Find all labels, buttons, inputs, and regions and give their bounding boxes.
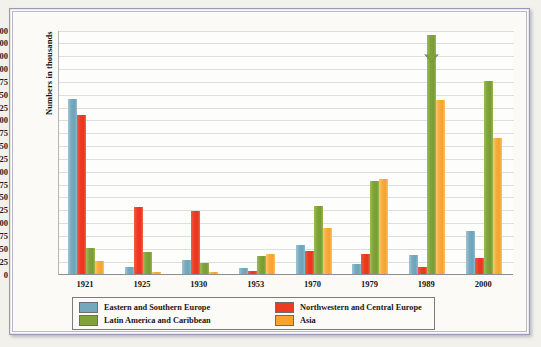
bar-group	[182, 30, 218, 274]
y-axis-tick-label: 25	[0, 258, 8, 266]
bar[interactable]	[77, 115, 86, 274]
bar[interactable]	[182, 260, 191, 274]
legend-swatch-orange	[275, 315, 294, 326]
bar[interactable]	[191, 211, 200, 274]
bar[interactable]	[86, 248, 95, 274]
bar[interactable]	[248, 271, 257, 274]
legend-swatch-green	[79, 315, 98, 326]
y-axis-tick-label: 125	[0, 206, 8, 214]
y-axis-tick-label: 175	[0, 181, 8, 189]
y-axis-title: Numbers in thousands	[44, 31, 54, 115]
chart-legend: Eastern and Southern Europe Northwestern…	[72, 297, 435, 330]
y-axis-tick-label: 200	[0, 168, 8, 176]
y-axis-tick-label: 250	[0, 142, 8, 150]
bar-group	[68, 30, 104, 274]
y-axis-tick-label: 50	[0, 245, 8, 253]
bar[interactable]	[266, 254, 275, 274]
chart-area: Numbers in thousands 0255075100125150175…	[58, 31, 513, 275]
bar[interactable]	[152, 272, 161, 274]
legend-label: Latin America and Caribbean	[104, 316, 211, 325]
bar-group	[296, 30, 332, 274]
y-axis-tick-label: 275	[0, 129, 8, 137]
bar[interactable]	[379, 179, 388, 274]
y-axis-tick-label: 500	[0, 52, 8, 60]
legend-swatch-blue	[79, 302, 98, 313]
bar[interactable]	[352, 264, 361, 274]
bar-group	[409, 30, 445, 274]
bar[interactable]	[323, 228, 332, 274]
legend-label: Northwestern and Central Europe	[300, 303, 422, 312]
legend-item-latin-america-caribbean[interactable]: Latin America and Caribbean	[79, 315, 275, 326]
plot-area	[58, 31, 513, 275]
legend-swatch-red	[275, 302, 294, 313]
y-axis-tick-label: 300	[0, 116, 8, 124]
bar[interactable]	[200, 263, 209, 274]
bar[interactable]	[427, 35, 436, 275]
bar[interactable]	[305, 251, 314, 274]
legend-label: Asia	[300, 316, 316, 325]
bar[interactable]	[239, 268, 248, 274]
y-axis-tick-label: 75	[0, 232, 8, 240]
bar-group	[352, 30, 388, 274]
bar[interactable]	[134, 207, 143, 274]
bar[interactable]	[257, 256, 266, 274]
bar[interactable]	[314, 206, 323, 274]
bar[interactable]	[361, 254, 370, 274]
y-axis-tick-label: 0	[0, 271, 8, 279]
bar-group	[239, 30, 275, 274]
bar[interactable]	[484, 81, 493, 274]
legend-row: Eastern and Southern Europe Northwestern…	[79, 301, 428, 314]
y-axis-tick-label: 350	[0, 91, 8, 99]
y-axis-tick-label: 100	[0, 219, 8, 227]
y-axis-tick-label: 225	[0, 155, 8, 163]
scanned-page: Numbers in thousands 0255075100125150175…	[0, 0, 541, 347]
bar[interactable]	[493, 138, 502, 274]
y-axis-tick-label: 600	[0, 39, 8, 47]
bar[interactable]	[68, 99, 77, 274]
bar[interactable]	[296, 245, 305, 274]
bar-group	[466, 30, 502, 274]
legend-label: Eastern and Southern Europe	[104, 303, 210, 312]
legend-row: Latin America and Caribbean Asia	[79, 314, 428, 327]
bar[interactable]	[209, 272, 218, 274]
y-axis-tick-label: 150	[0, 193, 8, 201]
bar[interactable]	[418, 267, 427, 274]
bar-group	[125, 30, 161, 274]
bar[interactable]	[466, 231, 475, 274]
legend-item-eastern-southern-europe[interactable]: Eastern and Southern Europe	[79, 302, 275, 313]
y-axis-tick-label: 375	[0, 78, 8, 86]
legend-item-asia[interactable]: Asia	[275, 315, 316, 326]
legend-item-northwestern-central-europe[interactable]: Northwestern and Central Europe	[275, 302, 422, 313]
bar[interactable]	[475, 258, 484, 274]
bar[interactable]	[143, 252, 152, 274]
bar[interactable]	[125, 267, 134, 274]
y-axis-tick-label: 325	[0, 104, 8, 112]
bar[interactable]	[370, 181, 379, 274]
bar[interactable]	[436, 100, 445, 274]
y-axis-tick-label: 700	[0, 27, 8, 35]
x-axis-tick-label: 2000	[448, 279, 518, 289]
y-axis-tick-label: 400	[0, 65, 8, 73]
bar[interactable]	[409, 255, 418, 274]
figure-frame: Numbers in thousands 0255075100125150175…	[9, 8, 530, 335]
bar[interactable]	[95, 261, 104, 274]
